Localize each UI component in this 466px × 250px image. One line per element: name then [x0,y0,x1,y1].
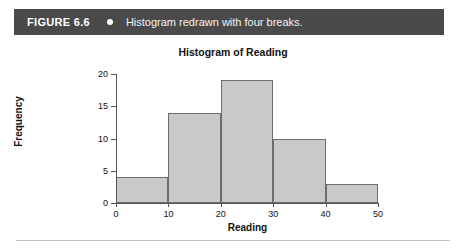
y-axis-tick-label: 15 [98,101,108,111]
histogram-chart: Histogram of Reading 01020304050 0510152… [0,38,466,234]
x-axis-tick-label: 20 [216,209,226,219]
x-axis-tick [168,203,169,207]
histogram-bar [221,80,273,203]
plot-area [116,74,378,203]
histogram-bar [273,139,325,204]
histogram-bar [116,177,168,203]
x-axis-tick-label: 40 [321,209,331,219]
figure-caption-text: Histogram redrawn with four breaks. [126,16,303,28]
x-axis-tick [221,203,222,207]
y-axis-tick-label: 5 [103,166,108,176]
figure-caption-bar: FIGURE 6.6 Histogram redrawn with four b… [14,9,444,35]
y-axis-tick [111,203,116,204]
x-axis-title: Reading [116,222,379,233]
y-axis-tick [111,171,116,172]
y-axis-tick [111,74,116,75]
x-axis-tick [116,203,117,207]
x-axis-line [116,203,379,204]
y-axis-tick-label: 20 [98,69,108,79]
x-axis-tick-label: 0 [113,209,118,219]
x-axis-tick-label: 10 [163,209,173,219]
chart-title: Histogram of Reading [0,46,466,58]
y-axis-title: Frequency [13,87,24,157]
histogram-bar [168,113,220,203]
y-axis-line [116,74,117,203]
x-axis-tick [378,203,379,207]
bullet-dot-icon [107,19,113,25]
y-axis-tick [111,106,116,107]
x-axis-tick-label: 30 [268,209,278,219]
x-axis-tick-label: 50 [373,209,383,219]
page-divider-rule [16,240,450,241]
y-axis-tick-label: 0 [103,198,108,208]
figure-number-label: FIGURE 6.6 [27,16,90,28]
y-axis-tick [111,139,116,140]
y-axis-tick-label: 10 [98,134,108,144]
histogram-bar [326,184,378,203]
x-axis-tick [273,203,274,207]
x-axis-tick [326,203,327,207]
